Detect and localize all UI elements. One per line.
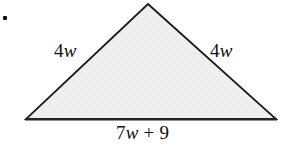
base-variable: w [126, 122, 139, 143]
label-left-side: 4w [54, 41, 77, 60]
triangle-shape [26, 4, 276, 119]
right-side-variable: w [220, 40, 233, 61]
left-side-coefficient: 4 [54, 40, 64, 61]
right-side-coefficient: 4 [210, 40, 220, 61]
base-coefficient: 7 [116, 122, 126, 143]
triangle-diagram: 4w 4w 7w + 9 [0, 0, 281, 146]
left-side-variable: w [64, 40, 77, 61]
base-operator: + [144, 122, 155, 143]
label-base-side: 7w + 9 [116, 123, 169, 142]
label-right-side: 4w [210, 41, 233, 60]
base-constant: 9 [159, 122, 169, 143]
